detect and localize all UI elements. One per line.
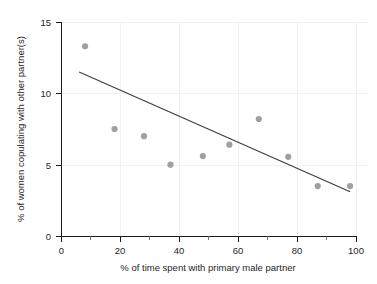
y-tick-label-0: 0 xyxy=(46,231,51,242)
plot-area: 15 10 5 0 0 20 40 60 80 100 % of time sp… xyxy=(0,0,377,284)
y-tick-label-5: 5 xyxy=(46,160,51,171)
gridlines-horizontal xyxy=(61,22,368,165)
y-tick-label-15: 15 xyxy=(40,17,51,28)
data-points xyxy=(82,43,353,189)
data-point xyxy=(285,154,291,160)
y-tick-labels: 15 10 5 0 xyxy=(40,17,51,242)
y-axis-title: % of women copulating with other partner… xyxy=(15,36,26,222)
data-point xyxy=(111,126,117,132)
x-tick-label-40: 40 xyxy=(174,245,185,256)
data-point xyxy=(226,142,232,148)
x-tick-labels: 0 20 40 60 80 100 xyxy=(59,245,364,256)
y-tick-label-10: 10 xyxy=(40,88,51,99)
x-tick-label-0: 0 xyxy=(59,245,64,256)
data-point xyxy=(167,162,173,168)
gridlines-vertical xyxy=(120,22,356,236)
x-axis xyxy=(61,236,356,242)
x-tick-label-100: 100 xyxy=(348,245,364,256)
x-axis-title: % of time spent with primary male partne… xyxy=(120,262,295,273)
data-point xyxy=(82,43,88,49)
data-point xyxy=(347,183,353,189)
x-tick-label-20: 20 xyxy=(115,245,126,256)
data-point xyxy=(200,153,206,159)
data-point xyxy=(256,116,262,122)
y-axis xyxy=(56,22,62,236)
x-tick-label-80: 80 xyxy=(292,245,303,256)
x-tick-label-60: 60 xyxy=(233,245,244,256)
data-point xyxy=(315,183,321,189)
scatter-chart: 15 10 5 0 0 20 40 60 80 100 % of time sp… xyxy=(0,0,377,284)
data-point xyxy=(141,133,147,139)
